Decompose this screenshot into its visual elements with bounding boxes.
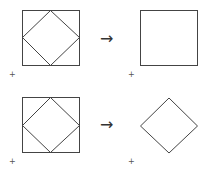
- outer-square: [23, 11, 80, 66]
- diagram-canvas: [0, 0, 209, 169]
- row-2-left-figure: [23, 98, 80, 153]
- row-2-right-marker: +: [128, 158, 135, 166]
- outer-square: [23, 98, 80, 153]
- row-1-left-marker: +: [9, 71, 16, 79]
- row-1-right-figure: [141, 11, 198, 66]
- result-square: [141, 11, 198, 66]
- row-1-left-figure: [23, 11, 80, 66]
- inscribed-diamond: [23, 11, 80, 66]
- result-diamond: [141, 98, 198, 153]
- row-2-left-marker: +: [9, 158, 16, 166]
- row-1-arrow-icon: →: [100, 31, 113, 47]
- row-2-right-figure: [141, 98, 198, 153]
- row-1-right-marker: +: [128, 71, 135, 79]
- row-2-arrow-icon: →: [100, 117, 113, 133]
- inscribed-diamond: [23, 98, 80, 153]
